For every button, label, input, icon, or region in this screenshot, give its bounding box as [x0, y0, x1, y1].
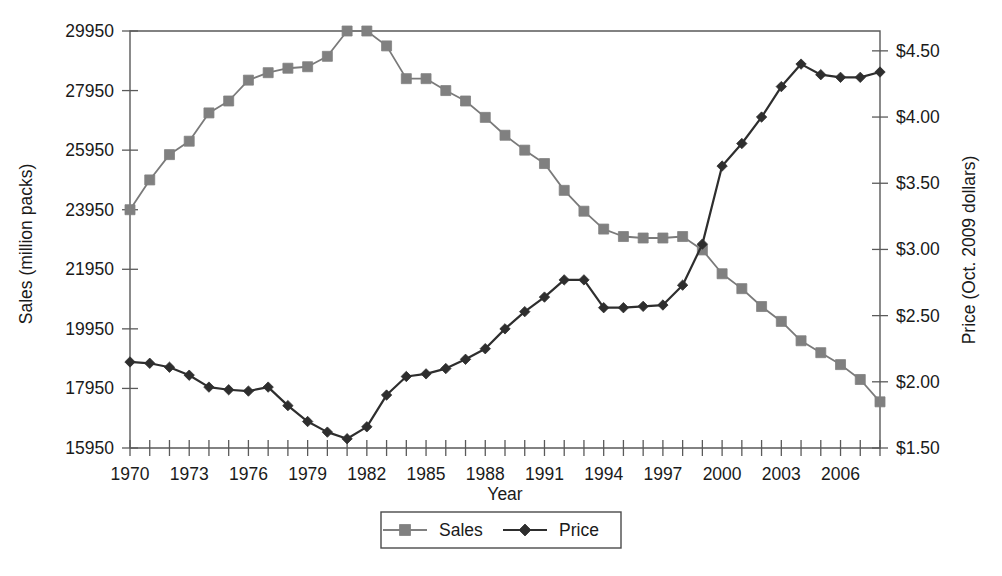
data-point-marker — [559, 185, 569, 195]
data-point-marker — [638, 233, 648, 243]
y-axis-right-tick-label: $3.50 — [896, 173, 940, 193]
y-axis-right-tick-label: $4.00 — [896, 107, 940, 127]
data-point-marker — [480, 112, 490, 122]
x-axis-tick-label: 1973 — [170, 464, 209, 484]
y-axis-right-title: Price (Oct. 2009 dollars) — [959, 156, 979, 345]
x-axis-tick-label: 2003 — [762, 464, 801, 484]
data-point-marker — [125, 357, 135, 367]
data-point-marker — [461, 96, 471, 106]
y-axis-left-tick-label: 15950 — [65, 438, 114, 458]
x-axis-tick-label: 2000 — [703, 464, 742, 484]
plot-frame — [130, 31, 880, 448]
data-point-marker — [145, 358, 155, 368]
data-point-marker — [164, 362, 174, 372]
x-axis-tick-label: 1982 — [347, 464, 386, 484]
data-point-marker — [500, 130, 510, 140]
y-axis-left-tick-label: 29950 — [65, 21, 114, 41]
series-price — [125, 59, 885, 444]
data-point-marker — [303, 62, 313, 72]
data-point-marker — [441, 86, 451, 96]
legend-label: Price — [559, 520, 599, 540]
data-point-marker — [539, 159, 549, 169]
data-point-marker — [875, 67, 885, 77]
x-axis-tick-label: 1991 — [525, 464, 564, 484]
series-sales — [125, 26, 885, 407]
chart-container: 1595017950199502195023950259502795029950… — [0, 0, 1002, 576]
data-point-marker — [520, 145, 530, 155]
data-point-marker — [362, 26, 372, 36]
y-axis-left-tick-label: 21950 — [65, 259, 114, 279]
y-axis-left-tick-label: 25950 — [65, 140, 114, 160]
data-point-marker — [855, 374, 865, 384]
data-point-marker — [362, 422, 372, 432]
data-point-marker — [816, 348, 826, 358]
data-point-marker — [618, 232, 628, 242]
data-point-marker — [835, 72, 845, 82]
y-axis-left-title: Sales (million packs) — [16, 164, 36, 324]
chart-legend: SalesPrice — [381, 512, 621, 548]
data-point-marker — [342, 26, 352, 36]
y-axis-right-tick-label: $3.00 — [896, 239, 940, 259]
y-axis-right-tick-label: $4.50 — [896, 41, 940, 61]
data-point-marker — [204, 108, 214, 118]
x-axis-tick-labels: 1970197319761979198219851988199119941997… — [111, 464, 860, 484]
y-axis-left-tick-label: 23950 — [65, 200, 114, 220]
data-point-marker — [875, 397, 885, 407]
data-point-marker — [184, 370, 194, 380]
y-axis-right-tick-label: $1.50 — [896, 438, 940, 458]
data-point-marker — [224, 96, 234, 106]
y-axis-right-tick-label: $2.50 — [896, 306, 940, 326]
data-point-marker — [184, 136, 194, 146]
legend-marker-swatch — [400, 525, 411, 536]
data-point-marker — [401, 74, 411, 84]
data-point-marker — [145, 175, 155, 185]
data-point-marker — [855, 72, 865, 82]
x-axis-tick-label: 1976 — [229, 464, 268, 484]
y-axis-left-tick-label: 19950 — [65, 319, 114, 339]
data-point-marker — [322, 427, 332, 437]
data-point-marker — [836, 360, 846, 370]
data-point-marker — [382, 41, 392, 51]
x-axis-tick-label: 1985 — [407, 464, 446, 484]
y-axis-right-tick-labels: $1.50$2.00$2.50$3.00$3.50$4.00$4.50 — [896, 41, 940, 458]
data-point-marker — [796, 336, 806, 346]
series-line — [130, 64, 880, 439]
data-point-marker — [579, 206, 589, 216]
data-point-marker — [125, 205, 135, 215]
x-axis-tick-label: 1997 — [643, 464, 682, 484]
data-point-marker — [283, 63, 293, 73]
data-point-marker — [243, 386, 253, 396]
data-point-marker — [342, 434, 352, 444]
data-point-marker — [737, 284, 747, 294]
sales-price-line-chart: 1595017950199502195023950259502795029950… — [0, 0, 1002, 576]
legend-label: Sales — [439, 520, 483, 540]
data-point-marker — [776, 316, 786, 326]
data-point-marker — [164, 150, 174, 160]
data-point-marker — [421, 74, 431, 84]
x-axis-tick-label: 1994 — [584, 464, 623, 484]
data-point-marker — [243, 75, 253, 85]
data-point-marker — [441, 363, 451, 373]
data-point-marker — [204, 382, 214, 392]
data-point-marker — [658, 233, 668, 243]
data-point-marker — [678, 232, 688, 242]
data-series-layer — [125, 26, 885, 444]
data-point-marker — [599, 224, 609, 234]
data-point-marker — [263, 68, 273, 78]
data-point-marker — [460, 354, 470, 364]
y-axis-right-tick-label: $2.00 — [896, 372, 940, 392]
data-point-marker — [223, 385, 233, 395]
y-axis-left-tick-label: 27950 — [65, 81, 114, 101]
y-axis-left-tick-label: 17950 — [65, 378, 114, 398]
data-point-marker — [322, 51, 332, 61]
series-line — [130, 31, 880, 402]
data-point-marker — [421, 369, 431, 379]
data-point-marker — [618, 302, 628, 312]
data-point-marker — [757, 302, 767, 312]
x-axis-tick-label: 2006 — [821, 464, 860, 484]
y-axis-left-tick-labels: 1595017950199502195023950259502795029950 — [65, 21, 114, 458]
x-axis-tick-label: 1988 — [466, 464, 505, 484]
data-point-marker — [717, 269, 727, 279]
x-axis-title: Year — [487, 484, 523, 504]
data-point-marker — [816, 69, 826, 79]
